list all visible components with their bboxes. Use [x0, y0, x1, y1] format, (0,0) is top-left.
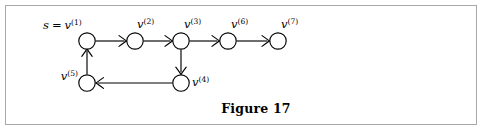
edge-v2-v3: [144, 36, 173, 47]
edge-v4-v5: [96, 78, 173, 89]
edge-v1-v2: [96, 36, 127, 47]
node-label-v2-sup: (2): [144, 17, 155, 26]
graph-diagram: s=v(1) v(2) v(3) v(6) v(7) v(4) v(5) Fig…: [6, 6, 478, 126]
figure-panel: s=v(1) v(2) v(3) v(6) v(7) v(4) v(5) Fig…: [5, 5, 477, 125]
node-label-v3: v(3): [184, 17, 201, 31]
node-label-v5-sup: (5): [67, 69, 78, 78]
node-v2[interactable]: [127, 33, 143, 49]
node-label-v5: v(5): [61, 69, 78, 83]
edge-v3-v6: [190, 36, 220, 47]
node-label-v7: v(7): [281, 17, 298, 31]
node-label-v4: v(4): [192, 75, 209, 89]
node-v4[interactable]: [173, 75, 189, 91]
edge-v3-v4: [176, 50, 186, 75]
node-label-v6-sup: (6): [238, 17, 249, 26]
node-label-v1-sup: (1): [71, 18, 82, 27]
node-label-v6: v(6): [231, 17, 248, 31]
source-prefix-s: s: [43, 18, 49, 32]
node-label-v4-sup: (4): [199, 75, 210, 84]
node-label-v2: v(2): [137, 17, 154, 31]
node-label-v7-sup: (7): [288, 17, 299, 26]
node-label-v1: s=v(1): [43, 18, 82, 32]
node-v6[interactable]: [220, 33, 236, 49]
node-label-v3-sup: (3): [191, 17, 202, 26]
edge-v5-v1: [82, 49, 92, 75]
node-v3[interactable]: [173, 33, 189, 49]
edge-v6-v7: [237, 36, 270, 47]
node-v7[interactable]: [270, 33, 286, 49]
figure-caption: Figure 17: [221, 101, 291, 116]
node-v5[interactable]: [79, 75, 95, 91]
node-v1[interactable]: [79, 33, 95, 49]
